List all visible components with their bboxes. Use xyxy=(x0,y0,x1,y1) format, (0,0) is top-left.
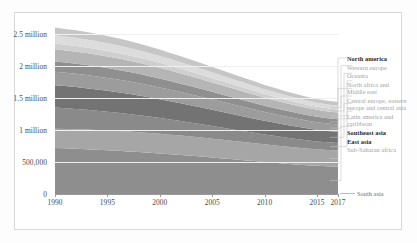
gridline xyxy=(55,98,338,99)
y-axis-tick-label: 1.5 million xyxy=(13,94,47,103)
chart-figure: 0500,0001 million1.5 million2 million2.5… xyxy=(0,0,417,243)
legend-leader xyxy=(330,96,352,128)
x-axis-line xyxy=(55,194,338,195)
legend-entry: Latin america and caribbean xyxy=(347,113,409,127)
gridline xyxy=(55,66,338,67)
south-asia-leader-line xyxy=(340,193,355,194)
x-axis-tick xyxy=(317,194,318,197)
x-axis-tick-label: 1990 xyxy=(47,198,62,207)
y-axis-tick-label: 2 million xyxy=(19,62,47,71)
x-axis-tick xyxy=(265,194,266,197)
legend-entry: Southeast asia xyxy=(347,129,409,136)
legend-entry: Central europe, eastern europe and centr… xyxy=(347,97,409,111)
legend-leader-lines xyxy=(330,52,352,207)
x-axis-tick-label: 2015 xyxy=(309,198,324,207)
y-axis-tick-label: 1 million xyxy=(19,126,47,135)
gridline xyxy=(55,162,338,163)
x-axis-tick-label: 2000 xyxy=(152,198,167,207)
stacked-area-svg xyxy=(55,18,338,194)
legend-entry: Western europe xyxy=(347,64,409,71)
x-axis-tick-label: 1995 xyxy=(100,198,115,207)
chart-legend: North americaWestern europeOceaniaNorth … xyxy=(347,55,409,155)
x-axis-tick-label: 2005 xyxy=(205,198,220,207)
gridline xyxy=(55,34,338,35)
plot-area xyxy=(55,18,338,194)
x-axis-tick-label: 2010 xyxy=(257,198,272,207)
legend-entry: North africa and Middle east xyxy=(347,81,409,95)
legend-entry: Sub-Saharan africa xyxy=(347,146,409,153)
legend-leader xyxy=(330,126,352,180)
legend-entry: East asia xyxy=(347,138,409,145)
x-axis-tick xyxy=(160,194,161,197)
y-axis-tick-label: 500,000 xyxy=(22,158,47,167)
x-axis-tick xyxy=(212,194,213,197)
gridline xyxy=(55,130,338,131)
x-axis-tick xyxy=(107,194,108,197)
legend-entry: Oceania xyxy=(347,72,409,79)
legend-callout-south-asia: South asia xyxy=(357,190,384,197)
y-axis-tick-label: 2.5 million xyxy=(13,30,47,39)
legend-entry: North america xyxy=(347,55,409,62)
x-axis-tick xyxy=(55,194,56,197)
